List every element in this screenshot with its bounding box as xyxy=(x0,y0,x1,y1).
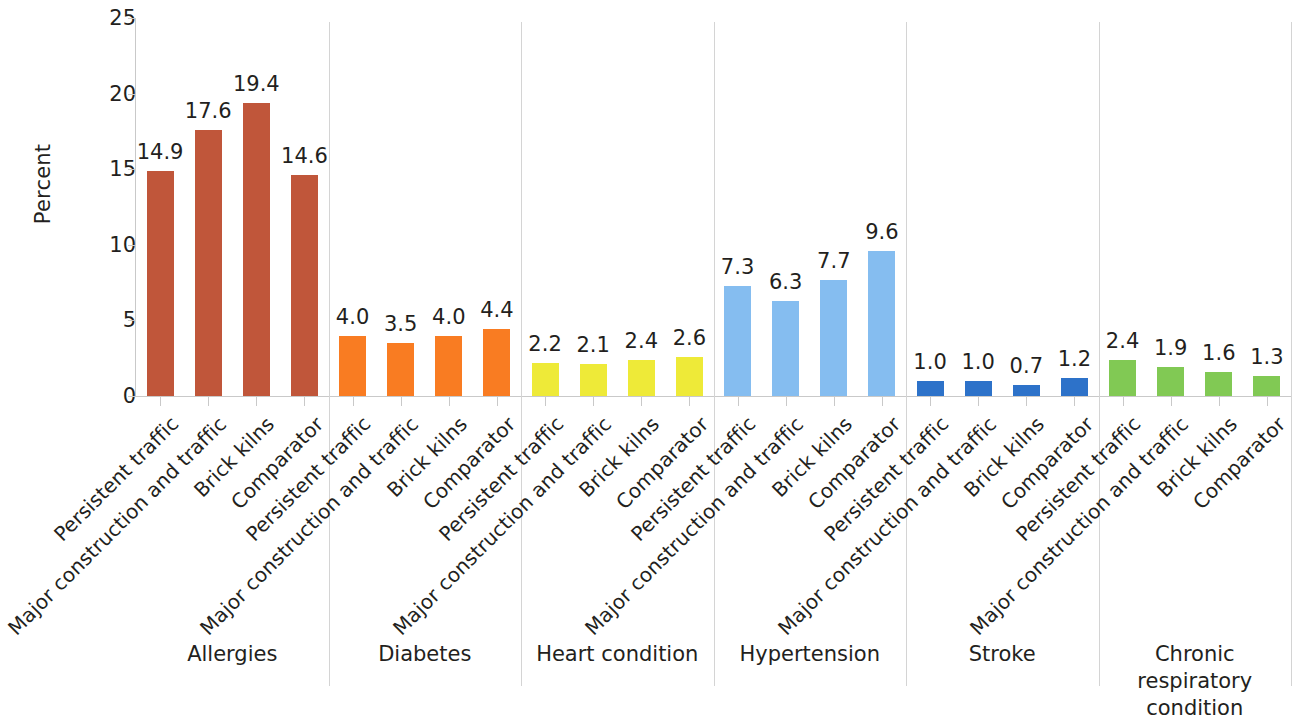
group-separator xyxy=(521,22,522,686)
bar xyxy=(1205,372,1232,396)
x-axis-tick xyxy=(1171,397,1172,406)
bar-value-label: 2.2 xyxy=(528,332,561,356)
x-axis-tick xyxy=(738,397,739,406)
bar xyxy=(868,251,895,396)
bar xyxy=(195,130,222,396)
bar xyxy=(1013,385,1040,396)
bar-value-label: 2.6 xyxy=(673,326,706,350)
x-axis-tick xyxy=(641,397,642,406)
bar xyxy=(1157,367,1184,396)
bar xyxy=(628,360,655,396)
x-axis-tick xyxy=(689,397,690,406)
group-separator xyxy=(1291,22,1292,686)
bar xyxy=(387,343,414,396)
bar xyxy=(1253,376,1280,396)
y-tick-mark xyxy=(128,245,136,246)
bar xyxy=(1109,360,1136,396)
bar-value-label: 1.3 xyxy=(1250,345,1283,369)
x-axis-tick xyxy=(930,397,931,406)
x-axis-tick xyxy=(1123,397,1124,406)
bar-value-label: 2.1 xyxy=(576,333,609,357)
bar-value-label: 4.4 xyxy=(480,298,513,322)
group-label: Chronic respiratory condition xyxy=(1099,641,1292,719)
x-axis-tick xyxy=(1219,397,1220,406)
bar xyxy=(772,301,799,396)
y-tick-mark xyxy=(128,320,136,321)
x-axis-category-label: Major construction and traffic xyxy=(3,412,231,640)
group-label: Allergies xyxy=(136,641,329,668)
bar xyxy=(917,381,944,396)
group-separator xyxy=(329,22,330,686)
bar xyxy=(676,357,703,396)
bar-value-label: 1.6 xyxy=(1202,341,1235,365)
x-axis-tick xyxy=(497,397,498,406)
bar xyxy=(532,363,559,396)
x-axis-tick xyxy=(1074,397,1075,406)
bar xyxy=(580,364,607,396)
x-axis-tick xyxy=(449,397,450,406)
bar xyxy=(483,329,510,396)
x-axis-tick xyxy=(545,397,546,406)
bar-value-label: 6.3 xyxy=(769,270,802,294)
bar xyxy=(339,336,366,396)
group-separator xyxy=(1099,22,1100,686)
x-axis-tick xyxy=(160,397,161,406)
bar-value-label: 3.5 xyxy=(384,312,417,336)
group-separator xyxy=(906,22,907,686)
bar-value-label: 17.6 xyxy=(185,99,232,123)
x-axis-tick xyxy=(353,397,354,406)
bar-value-label: 1.0 xyxy=(961,350,994,374)
bar-value-label: 2.4 xyxy=(1106,329,1139,353)
bar-value-label: 4.0 xyxy=(336,305,369,329)
x-axis-tick xyxy=(978,397,979,406)
bar xyxy=(724,286,751,396)
bar-value-label: 1.2 xyxy=(1058,347,1091,371)
bar xyxy=(820,280,847,396)
bar-value-label: 4.0 xyxy=(432,305,465,329)
y-tick-mark xyxy=(128,94,136,95)
bar-value-label: 14.9 xyxy=(137,140,184,164)
x-axis-tick xyxy=(1267,397,1268,406)
bar xyxy=(291,175,318,396)
group-label: Heart condition xyxy=(521,641,714,668)
bar-value-label: 1.9 xyxy=(1154,336,1187,360)
x-axis-tick xyxy=(1026,397,1027,406)
bar-value-label: 19.4 xyxy=(233,72,280,96)
bar-value-label: 7.3 xyxy=(721,255,754,279)
bar xyxy=(243,103,270,396)
bar-value-label: 9.6 xyxy=(865,220,898,244)
y-tick-mark xyxy=(128,396,136,397)
x-axis-tick xyxy=(834,397,835,406)
group-label: Diabetes xyxy=(329,641,522,668)
x-axis-tick xyxy=(304,397,305,406)
bar xyxy=(965,381,992,396)
bar-value-label: 2.4 xyxy=(625,329,658,353)
bar xyxy=(435,336,462,396)
x-axis-tick xyxy=(593,397,594,406)
x-axis-tick xyxy=(786,397,787,406)
y-axis-title: Percent xyxy=(31,114,55,254)
x-axis-tick xyxy=(401,397,402,406)
group-label: Stroke xyxy=(906,641,1099,668)
x-axis-tick xyxy=(208,397,209,406)
bar xyxy=(1061,378,1088,396)
y-tick-mark xyxy=(128,18,136,19)
group-separator xyxy=(714,22,715,686)
x-axis-tick xyxy=(256,397,257,406)
bar-value-label: 0.7 xyxy=(1010,354,1043,378)
bar-value-label: 1.0 xyxy=(913,350,946,374)
bar-value-label: 14.6 xyxy=(281,144,328,168)
bar xyxy=(147,171,174,396)
bar-value-label: 7.7 xyxy=(817,249,850,273)
y-tick-mark xyxy=(128,169,136,170)
group-label: Hypertension xyxy=(714,641,907,668)
y-axis-line xyxy=(135,18,136,397)
x-axis-tick xyxy=(882,397,883,406)
